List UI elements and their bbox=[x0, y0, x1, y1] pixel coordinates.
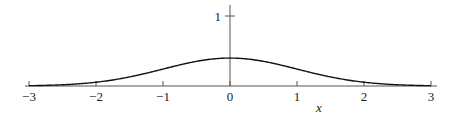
x-tick-label: −2 bbox=[89, 89, 103, 104]
x-tick-label: 2 bbox=[361, 89, 368, 104]
x-ticks: −3−2−10123 bbox=[22, 81, 434, 104]
x-tick-label: 0 bbox=[227, 89, 234, 104]
y-tick-label: 1 bbox=[215, 9, 222, 24]
x-axis-label: x bbox=[315, 100, 322, 115]
x-tick-label: 3 bbox=[428, 89, 435, 104]
y-ticks: 1 bbox=[215, 9, 236, 24]
x-tick-label: −1 bbox=[156, 89, 170, 104]
x-tick-label: −3 bbox=[22, 89, 36, 104]
normal-curve-chart: −3−2−10123 1 x bbox=[0, 0, 458, 119]
x-tick-label: 1 bbox=[294, 89, 301, 104]
